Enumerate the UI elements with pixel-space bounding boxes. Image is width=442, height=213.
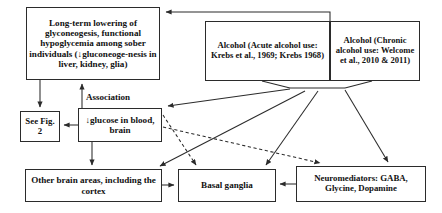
node-basal-ganglia: Basal ganglia — [178, 169, 276, 202]
edge-acute-to-junction — [262, 81, 290, 88]
node-neuromediators: Neuromediators: GABA, Glycine, Dopamine — [296, 166, 426, 202]
node-neuromediators-label: Neuromediators: GABA, Glycine, Dopamine — [297, 174, 425, 194]
edge-chronic-to-junction — [345, 81, 372, 88]
node-long-term-lowering-label: Long-term lowering of glyconeogesis, fun… — [27, 18, 159, 69]
node-alcohol-acute-use: Alcohol (Acute alcohol use: Krebs et al.… — [205, 21, 330, 81]
node-glucose-decrease-label: ↓glucose in blood, brain — [79, 115, 161, 136]
node-long-term-lowering: Long-term lowering of glyconeogesis, fun… — [26, 7, 160, 80]
node-other-brain-areas-label: Other brain areas, including the cortex — [26, 175, 161, 196]
edge-glucose-to-neuromediators-dashed — [163, 127, 320, 163]
edge-junction-to-neuromediators — [345, 90, 388, 162]
node-alcohol-acute-use-label: Alcohol (Acute alcohol use: Krebs et al.… — [206, 41, 329, 60]
edge-junction-to-basal-ganglia — [266, 91, 318, 165]
edge-junction-to-glucose — [168, 89, 290, 106]
node-alcohol-chronic-use: Alcohol (Chronic alcohol use: Welcome et… — [330, 21, 420, 81]
flowchart-diagram: Long-term lowering of glyconeogesis, fun… — [0, 0, 442, 213]
edge-glucose-to-basal-ganglia-dashed — [163, 115, 196, 165]
edge-label-association: Association — [85, 92, 131, 102]
node-other-brain-areas: Other brain areas, including the cortex — [25, 169, 162, 202]
node-see-fig-2: See Fig. 2 — [20, 111, 60, 142]
node-alcohol-chronic-use-label: Alcohol (Chronic alcohol use: Welcome et… — [331, 36, 419, 65]
node-glucose-decrease: ↓glucose in blood, brain — [78, 108, 162, 142]
node-see-fig-2-label: See Fig. 2 — [21, 117, 59, 137]
edge-alcohol-to-longterm — [166, 12, 330, 21]
node-basal-ganglia-label: Basal ganglia — [199, 180, 255, 190]
